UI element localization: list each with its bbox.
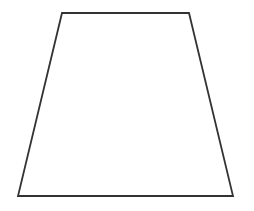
trapezoid-shape: [18, 13, 233, 196]
diagram-canvas: [0, 0, 254, 211]
